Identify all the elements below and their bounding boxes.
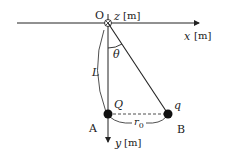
- angle-label: θ: [113, 49, 120, 60]
- x-unit-label: [m]: [194, 31, 211, 41]
- distance-subscript: 0: [139, 121, 144, 130]
- x-axis-label: x: [184, 31, 190, 42]
- z-axis-label: z: [114, 11, 120, 22]
- y-unit-label: [m]: [124, 138, 141, 148]
- point-B-label: B: [177, 124, 185, 135]
- z-unit-label: [m]: [123, 11, 140, 21]
- charge-A-label: Q: [114, 99, 123, 110]
- charge-B-label: q: [174, 100, 181, 111]
- origin-label: O: [95, 10, 104, 21]
- diagram-graphics: [0, 0, 226, 163]
- y-axis-label: y: [115, 138, 121, 149]
- length-label: L: [92, 67, 99, 78]
- charge-B: [164, 110, 173, 119]
- point-A-label: A: [89, 123, 97, 134]
- distance-label: r0: [134, 117, 144, 130]
- pendulum-diagram: O z [m] x [m] θ L Q q A B r0 y [m]: [0, 0, 226, 163]
- charge-A: [104, 110, 113, 119]
